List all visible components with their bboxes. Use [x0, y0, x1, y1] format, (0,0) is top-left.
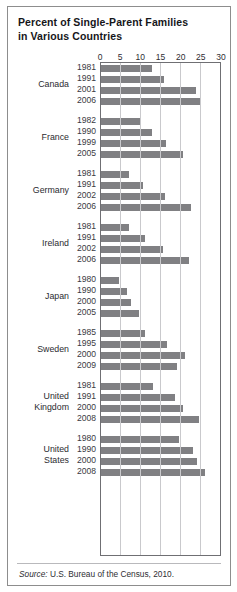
year-label: 1981: [74, 381, 100, 390]
bar: [101, 204, 191, 211]
plot-area: [100, 62, 221, 556]
chart-body: Canada1981199120012006France198219901999…: [17, 62, 221, 556]
bar: [101, 352, 185, 359]
country-label: Canada: [38, 78, 69, 89]
country-label: France: [42, 131, 69, 142]
year-label-row: 1981: [17, 380, 100, 391]
gridline: [160, 63, 161, 555]
year-label-row: 2006: [17, 254, 100, 265]
year-label-row: 1981: [17, 62, 100, 73]
bar: [101, 76, 164, 83]
category-group-labels: Germany1981199120022006: [17, 168, 100, 212]
source-label: Source:: [19, 569, 48, 579]
gridline: [200, 63, 201, 555]
bar: [101, 394, 175, 401]
year-label: 2000: [74, 350, 100, 359]
bar: [101, 277, 119, 284]
source-text: U.S. Bureau of the Census, 2010.: [48, 569, 174, 579]
x-tick-label: 30: [216, 53, 225, 62]
bar: [101, 171, 129, 178]
country-label: United Kingdom: [34, 391, 69, 413]
year-label-row: 2006: [17, 201, 100, 212]
year-label-row: 1981: [17, 221, 100, 232]
category-group-labels: France1982199019992005: [17, 115, 100, 159]
bar: [101, 416, 199, 423]
year-label: 2005: [74, 149, 100, 158]
year-label-row: 1980: [17, 433, 100, 444]
year-label: 2001: [74, 85, 100, 94]
x-tick-label: 0: [98, 53, 103, 62]
year-label: 1990: [74, 445, 100, 454]
bar: [101, 224, 129, 231]
year-label-row: 2005: [17, 148, 100, 159]
x-tick-label: 20: [176, 53, 185, 62]
country-label: Sweden: [37, 343, 69, 354]
year-label-row: 1981: [17, 168, 100, 179]
gridline: [120, 63, 121, 555]
x-tick-label: 10: [136, 53, 145, 62]
year-label: 2000: [74, 297, 100, 306]
year-label: 1980: [74, 434, 100, 443]
x-tick-label: 5: [118, 53, 123, 62]
chart-title-line-2: in Various Countries: [18, 30, 221, 44]
year-label: 1991: [74, 233, 100, 242]
source-note: Source: U.S. Bureau of the Census, 2010.: [17, 564, 221, 579]
country-label: Ireland: [42, 237, 69, 248]
category-group-labels: Japan1980199020002005: [17, 274, 100, 318]
bar: [101, 118, 141, 125]
year-label-row: 1980: [17, 274, 100, 285]
chart-frame: Percent of Single-Parent Families in Var…: [7, 6, 231, 586]
bar: [101, 182, 143, 189]
bar: [101, 193, 165, 200]
year-label-row: 2005: [17, 307, 100, 318]
bar: [101, 469, 205, 476]
x-axis-scale: 051015202530: [100, 49, 221, 62]
year-label: 1999: [74, 138, 100, 147]
year-label-row: 1985: [17, 327, 100, 338]
bar: [101, 98, 201, 105]
year-label: 2008: [74, 467, 100, 476]
plot-wrapper: 051015202530 Canada1981199120012006Franc…: [17, 49, 221, 556]
year-label: 1985: [74, 328, 100, 337]
bar: [101, 140, 166, 147]
year-label: 2006: [74, 202, 100, 211]
category-group-labels: Ireland1981199120022006: [17, 221, 100, 265]
year-label: 1991: [74, 392, 100, 401]
year-label-row: 2009: [17, 360, 100, 371]
category-group-labels: Canada1981199120012006: [17, 62, 100, 106]
year-label: 2002: [74, 244, 100, 253]
bar: [101, 257, 189, 264]
bar: [101, 129, 152, 136]
year-label: 1990: [74, 286, 100, 295]
year-label: 2006: [74, 96, 100, 105]
year-label-row: 2008: [17, 466, 100, 477]
x-tick-label: 15: [156, 53, 165, 62]
bar: [101, 151, 183, 158]
gridline: [140, 63, 141, 555]
chart-title-line-1: Percent of Single-Parent Families: [18, 16, 221, 30]
bar: [101, 458, 197, 465]
category-group-labels: United States1980199020002008: [17, 433, 100, 477]
year-label: 1982: [74, 116, 100, 125]
category-group-labels: Sweden1985199520002009: [17, 327, 100, 371]
year-label: 2009: [74, 361, 100, 370]
x-axis-tick-labels: 051015202530: [17, 49, 221, 62]
gridline: [220, 63, 221, 555]
bar: [101, 288, 127, 295]
chart-title: Percent of Single-Parent Families in Var…: [18, 16, 221, 44]
bar: [101, 87, 196, 94]
year-label: 1980: [74, 275, 100, 284]
bar: [101, 405, 183, 412]
year-label-row: 2008: [17, 413, 100, 424]
year-label: 2002: [74, 191, 100, 200]
x-tick-label: 25: [196, 53, 205, 62]
year-label: 1995: [74, 339, 100, 348]
year-label: 1981: [74, 222, 100, 231]
year-label: 2000: [74, 403, 100, 412]
country-label: Japan: [45, 290, 69, 301]
country-label: Germany: [33, 184, 69, 195]
bar: [101, 341, 167, 348]
year-label: 1990: [74, 127, 100, 136]
bar: [101, 246, 163, 253]
year-label: 1981: [74, 63, 100, 72]
